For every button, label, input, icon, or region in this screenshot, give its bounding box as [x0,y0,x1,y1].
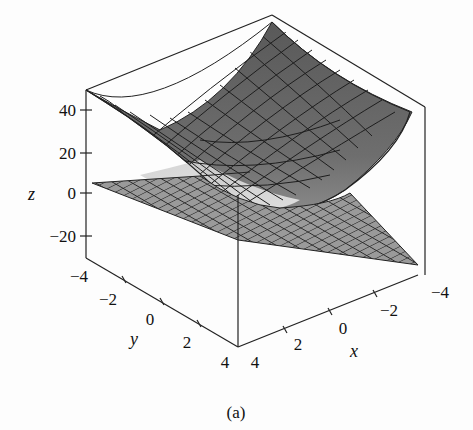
z-tick-40: 40 [59,101,76,120]
z-tick-minus20: −20 [49,227,76,246]
y-axis [122,276,201,327]
y-tick-minus4: −4 [70,267,89,286]
x-tick-minus4: −4 [431,283,450,302]
z-axis-label: z [27,184,35,204]
y-tick-2: 2 [183,333,192,352]
x-tick-minus2: −2 [380,301,398,320]
x-tick-2: 2 [294,335,303,354]
figure-caption: (a) [227,403,246,422]
x-tick-4: 4 [251,353,260,372]
surface-plot: 40 20 0 −20 z −4 −2 0 2 4 y 4 2 0 −2 −4 … [0,0,473,430]
y-axis-label: y [128,329,138,349]
z-tick-20: 20 [59,144,76,163]
figure: 40 20 0 −20 z −4 −2 0 2 4 y 4 2 0 −2 −4 … [0,0,473,430]
z-tick-0: 0 [68,184,77,203]
x-axis-label: x [349,341,358,361]
x-tick-0: 0 [339,319,348,338]
y-tick-minus2: −2 [99,290,117,309]
y-tick-4: 4 [221,353,230,372]
y-tick-0: 0 [146,310,155,329]
